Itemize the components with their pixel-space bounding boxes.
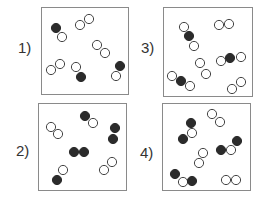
dark-atom-icon — [184, 31, 193, 40]
dark-atom-icon — [232, 136, 241, 145]
light-atom-icon — [92, 40, 101, 49]
light-atom-icon — [187, 128, 196, 137]
dark-atom-icon — [115, 61, 124, 70]
light-atom-icon — [214, 20, 223, 29]
light-atom-icon — [71, 62, 80, 71]
dark-atom-icon — [186, 118, 195, 127]
light-atom-icon — [99, 165, 108, 174]
light-atom-icon — [46, 65, 55, 74]
light-atom-icon — [227, 84, 236, 93]
light-atom-icon — [231, 175, 240, 184]
light-atom-icon — [224, 19, 233, 28]
dark-atom-icon — [69, 147, 78, 156]
light-atom-icon — [226, 145, 235, 154]
light-atom-icon — [57, 32, 66, 41]
light-atom-icon — [207, 109, 216, 118]
dark-atom-icon — [225, 53, 234, 62]
dark-atom-icon — [187, 176, 196, 185]
dark-atom-icon — [79, 147, 88, 156]
light-atom-icon — [221, 175, 230, 184]
light-atom-icon — [179, 22, 188, 31]
dark-atom-icon — [51, 23, 60, 32]
light-atom-icon — [194, 158, 203, 167]
atoms-layer — [0, 0, 264, 206]
light-atom-icon — [215, 117, 224, 126]
light-atom-icon — [107, 157, 116, 166]
dark-atom-icon — [170, 169, 179, 178]
dark-atom-icon — [108, 134, 117, 143]
light-atom-icon — [53, 129, 62, 138]
dark-atom-icon — [176, 76, 185, 85]
light-atom-icon — [55, 59, 64, 68]
light-atom-icon — [198, 148, 207, 157]
light-atom-icon — [185, 81, 194, 90]
light-atom-icon — [178, 177, 187, 186]
light-atom-icon — [167, 71, 176, 80]
dark-atom-icon — [80, 111, 89, 120]
dark-atom-icon — [110, 123, 119, 132]
light-atom-icon — [236, 77, 245, 86]
dark-atom-icon — [178, 134, 187, 143]
light-atom-icon — [195, 58, 204, 67]
light-atom-icon — [75, 20, 84, 29]
dark-atom-icon — [216, 145, 225, 154]
light-atom-icon — [100, 48, 109, 57]
dark-atom-icon — [52, 175, 61, 184]
dark-atom-icon — [76, 72, 85, 81]
light-atom-icon — [236, 52, 245, 61]
light-atom-icon — [111, 71, 120, 80]
light-atom-icon — [88, 118, 97, 127]
light-atom-icon — [84, 14, 93, 23]
light-atom-icon — [46, 122, 55, 131]
light-atom-icon — [201, 69, 210, 78]
light-atom-icon — [216, 56, 225, 65]
light-atom-icon — [58, 165, 67, 174]
light-atom-icon — [189, 41, 198, 50]
